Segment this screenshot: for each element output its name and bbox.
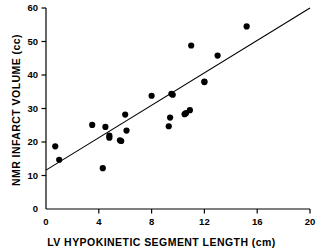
svg-text:50: 50 xyxy=(27,36,38,47)
data-point xyxy=(201,79,207,85)
data-point xyxy=(100,165,106,171)
axis-tick-labels: 0102030405060048121620 xyxy=(27,2,315,227)
data-point xyxy=(102,124,108,130)
svg-text:8: 8 xyxy=(149,216,154,227)
svg-text:4: 4 xyxy=(96,216,102,227)
plot-area: 0102030405060048121620 xyxy=(0,0,323,248)
svg-text:20: 20 xyxy=(27,136,38,147)
svg-text:0: 0 xyxy=(33,203,38,214)
svg-text:60: 60 xyxy=(27,2,38,13)
data-point xyxy=(170,92,176,98)
data-point xyxy=(89,122,95,128)
x-axis-title: LV HYPOKINETIC SEGMENT LENGTH (cm) xyxy=(0,236,323,248)
svg-text:10: 10 xyxy=(27,170,38,181)
svg-text:20: 20 xyxy=(305,216,316,227)
data-point xyxy=(166,123,172,129)
data-point xyxy=(106,135,112,141)
svg-text:30: 30 xyxy=(27,103,38,114)
figure: NMR INFARCT VOLUME (cc) 0102030405060048… xyxy=(0,0,323,248)
scatter-plot-svg: 0102030405060048121620 xyxy=(0,0,323,248)
data-point xyxy=(56,157,62,163)
data-point xyxy=(167,114,173,120)
data-point xyxy=(188,42,194,48)
data-points xyxy=(52,23,250,171)
svg-text:16: 16 xyxy=(252,216,263,227)
axes xyxy=(46,8,310,209)
axis-ticks xyxy=(42,8,311,214)
regression-line xyxy=(46,8,310,170)
data-point xyxy=(52,143,58,149)
svg-text:0: 0 xyxy=(43,216,48,227)
data-point xyxy=(187,107,193,113)
data-point xyxy=(215,52,221,58)
svg-text:12: 12 xyxy=(199,216,210,227)
data-point xyxy=(118,138,124,144)
svg-text:40: 40 xyxy=(27,69,38,80)
data-point xyxy=(149,93,155,99)
data-point xyxy=(122,111,128,117)
data-point xyxy=(123,128,129,134)
data-point xyxy=(244,23,250,29)
